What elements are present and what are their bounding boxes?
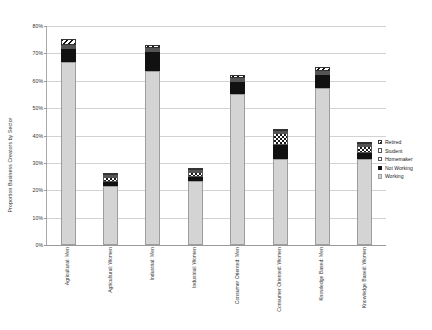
legend-item[interactable]: Retired: [378, 139, 413, 145]
legend-item-label: Not Working: [385, 165, 413, 171]
legend-item-label: Retired: [385, 139, 401, 145]
legend-swatch-working: [378, 174, 382, 178]
bar-segment-homemaker[interactable]: [357, 146, 372, 153]
legend-item[interactable]: Working: [378, 173, 413, 179]
y-tick-label: 10%: [33, 215, 43, 221]
bar-segment-notworking[interactable]: [230, 82, 245, 94]
x-axis-labels: Agricultural: MenAgricultural: WomenIndu…: [46, 247, 385, 329]
plot-area: 0%10%20%30%40%50%60%70%80%: [46, 26, 386, 246]
bar-segment-notworking[interactable]: [61, 49, 76, 61]
bar-segment-homemaker[interactable]: [273, 133, 288, 145]
y-tick-label: 40%: [33, 133, 43, 139]
x-axis-label: Consumer Oriented: Women: [276, 247, 283, 329]
bar-segment-working[interactable]: [273, 159, 288, 245]
y-tick-label: 30%: [33, 160, 43, 166]
x-axis-label: Industrial: Women: [191, 247, 198, 329]
bar-stack[interactable]: [315, 67, 330, 245]
x-axis-label: Agricultural: Women: [107, 247, 114, 329]
legend-item-label: Student: [385, 148, 403, 154]
bar-stack[interactable]: [273, 129, 288, 245]
bar-segment-notworking[interactable]: [145, 52, 160, 71]
bar-segment-working[interactable]: [188, 181, 203, 245]
legend-item[interactable]: Student: [378, 148, 413, 154]
y-axis-title: Proportion Business Creators by Sector: [2, 0, 18, 330]
legend-swatch-homemaker: [378, 157, 382, 161]
bar-segment-working[interactable]: [61, 62, 76, 245]
gridline: [47, 245, 386, 246]
bar-segment-notworking[interactable]: [273, 145, 288, 159]
y-tick-label: 80%: [33, 23, 43, 29]
bar-segment-working[interactable]: [103, 186, 118, 245]
bar-stack[interactable]: [230, 75, 245, 245]
bar-stack[interactable]: [357, 142, 372, 245]
bar-segment-working[interactable]: [145, 71, 160, 245]
x-axis-label: Consumer Oriented: Men: [234, 247, 241, 329]
y-tick-mark: [44, 245, 47, 246]
x-axis-label: Agricultural: Men: [64, 247, 71, 329]
legend-swatch-student: [378, 148, 382, 152]
bar-stack[interactable]: [145, 45, 160, 245]
legend-item[interactable]: Not Working: [378, 165, 413, 171]
x-axis-label: Knowledge Based: Women: [361, 247, 368, 329]
bar-segment-working[interactable]: [230, 94, 245, 245]
legend-item[interactable]: Homemaker: [378, 156, 413, 162]
y-axis-title-text: Proportion Business Creators by Sector: [7, 118, 13, 213]
bar-segment-working[interactable]: [315, 88, 330, 245]
legend: RetiredStudentHomemakerNot WorkingWorkin…: [378, 139, 413, 179]
y-tick-label: 70%: [33, 50, 43, 56]
stacked-bar-chart: Proportion Business Creators by Sector 0…: [0, 0, 432, 330]
legend-swatch-notworking: [378, 166, 382, 170]
x-axis-label: Industrial: Men: [149, 247, 156, 329]
y-tick-label: 50%: [33, 105, 43, 111]
bar-stack[interactable]: [188, 168, 203, 245]
y-tick-label: 60%: [33, 78, 43, 84]
y-tick-label: 20%: [33, 187, 43, 193]
legend-item-label: Working: [385, 173, 404, 179]
bar-series-container: [47, 26, 386, 245]
bar-segment-notworking[interactable]: [315, 75, 330, 87]
bar-stack[interactable]: [103, 173, 118, 245]
x-axis-label: Knowledge Based: Men: [318, 247, 325, 329]
legend-item-label: Homemaker: [385, 156, 413, 162]
bar-segment-working[interactable]: [357, 159, 372, 245]
y-tick-label: 0%: [36, 242, 44, 248]
legend-swatch-retired: [378, 140, 382, 144]
bar-stack[interactable]: [61, 39, 76, 245]
